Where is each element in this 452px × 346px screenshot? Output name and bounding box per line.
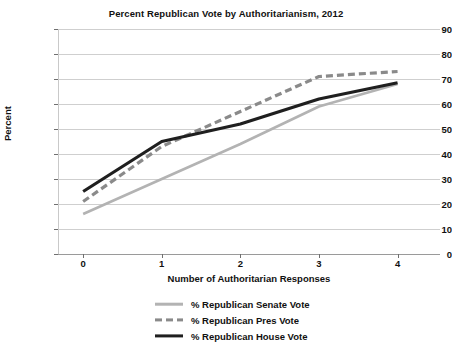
- legend-swatch-icon: [155, 299, 183, 309]
- legend-item[interactable]: % Republican Pres Vote: [0, 312, 452, 328]
- series-line: [83, 83, 397, 192]
- legend-swatch-icon: [155, 315, 183, 325]
- legend-swatch-icon: [155, 331, 183, 341]
- chart-legend: % Republican Senate Vote% Republican Pre…: [0, 296, 452, 344]
- legend-label: % Republican House Vote: [191, 331, 307, 342]
- chart-figure: Percent Republican Vote by Authoritarian…: [0, 0, 452, 346]
- series-line: [83, 84, 397, 214]
- legend-label: % Republican Senate Vote: [191, 299, 310, 310]
- series-lines: [0, 0, 452, 346]
- legend-item[interactable]: % Republican Senate Vote: [0, 296, 452, 312]
- legend-item[interactable]: % Republican House Vote: [0, 328, 452, 344]
- legend-label: % Republican Pres Vote: [191, 315, 299, 326]
